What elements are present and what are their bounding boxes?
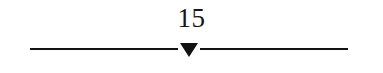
- axis-rule-right-segment: [200, 48, 348, 50]
- axis-rule-left-segment: [30, 48, 178, 50]
- marker-value-label: 15: [0, 3, 383, 33]
- triangle-down-icon: [180, 43, 198, 57]
- axis-marker-figure: 15: [0, 0, 383, 73]
